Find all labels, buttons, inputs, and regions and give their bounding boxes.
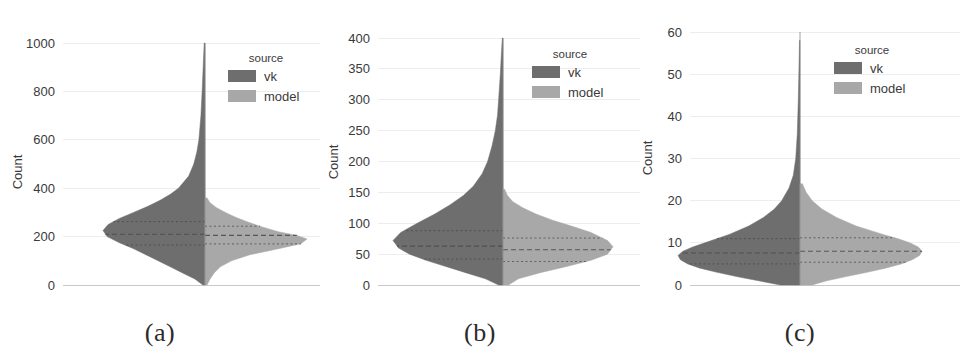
panel-c-legend-label-model[interactable]: model [870,81,906,96]
panel-c: 0102030405060Countsourcevkmodel (c) [640,0,960,354]
panel-c-legend-swatch-model[interactable] [834,82,862,94]
panel-b-plot: 050100150200250300350400Countsourcevkmod… [320,0,640,354]
panel-c-legend-title: source [855,44,890,56]
panel-a-ytick-0: 0 [48,278,55,293]
panel-b-legend-title: source [553,48,588,60]
panel-a: 02004006008001000Countsourcevkmodel (a) [0,0,320,354]
panel-a-violin-vk [103,43,205,285]
panel-b-canvas: 050100150200250300350400Countsourcevkmod… [326,31,640,293]
panel-a-ylabel: Count [10,154,25,189]
panel-a-legend-label-vk[interactable]: vk [264,69,278,84]
panel-a-legend-title: source [249,52,284,64]
panel-c-ylabel: Count [640,140,655,175]
panel-b-ytick-200: 200 [348,154,370,169]
panel-c-ytick-10: 10 [668,235,682,250]
panel-c-ytick-20: 20 [668,193,682,208]
panel-a-violin-model [205,198,307,285]
panel-c-caption: (c) [640,318,960,348]
panel-b-ytick-300: 300 [348,92,370,107]
panel-c-violin-vk [678,40,800,285]
panel-c-plot: 0102030405060Countsourcevkmodel [640,0,960,354]
panel-c-legend: sourcevkmodel [834,44,906,96]
panel-b-ytick-0: 0 [363,278,370,293]
panel-b-legend-label-model[interactable]: model [568,85,604,100]
panel-c-canvas: 0102030405060Countsourcevkmodel [640,25,960,293]
panel-b-legend-label-vk[interactable]: vk [568,65,582,80]
panel-b-legend-swatch-model[interactable] [532,86,560,98]
panel-c-ytick-50: 50 [668,67,682,82]
panel-c-legend-swatch-vk[interactable] [834,62,862,74]
panel-a-ytick-400: 400 [33,181,55,196]
panel-b-legend-swatch-vk[interactable] [532,66,560,78]
panel-b-ylabel: Count [326,144,341,179]
panel-c-legend-label-vk[interactable]: vk [870,61,884,76]
panel-c-ytick-0: 0 [675,278,682,293]
panel-b-ytick-100: 100 [348,216,370,231]
panel-a-legend-swatch-vk[interactable] [228,70,256,82]
panel-b-ytick-150: 150 [348,185,370,200]
panel-a-legend-swatch-model[interactable] [228,90,256,102]
panel-b-caption: (b) [320,318,640,348]
panel-a-canvas: 02004006008001000Countsourcevkmodel [10,36,320,293]
panel-c-ytick-30: 30 [668,151,682,166]
panel-b-ytick-350: 350 [348,61,370,76]
panel-c-violin-model [800,184,922,285]
panel-b-legend: sourcevkmodel [532,48,604,100]
panel-c-ytick-60: 60 [668,25,682,40]
panel-b-ytick-400: 400 [348,31,370,46]
panel-b-ytick-250: 250 [348,123,370,138]
panel-c-ytick-40: 40 [668,109,682,124]
panel-a-caption: (a) [0,318,320,348]
panel-a-plot: 02004006008001000Countsourcevkmodel [0,0,320,354]
panel-a-ytick-1000: 1000 [26,36,55,51]
panel-a-ytick-600: 600 [33,132,55,147]
panel-b: 050100150200250300350400Countsourcevkmod… [320,0,640,354]
panel-a-legend-label-model[interactable]: model [264,89,300,104]
panel-a-ytick-800: 800 [33,84,55,99]
panel-b-violin-model [503,189,613,285]
panel-a-ytick-200: 200 [33,229,55,244]
panel-a-legend: sourcevkmodel [228,52,300,104]
violin-figure: 02004006008001000Countsourcevkmodel (a) … [0,0,960,354]
panel-b-ytick-50: 50 [356,247,370,262]
